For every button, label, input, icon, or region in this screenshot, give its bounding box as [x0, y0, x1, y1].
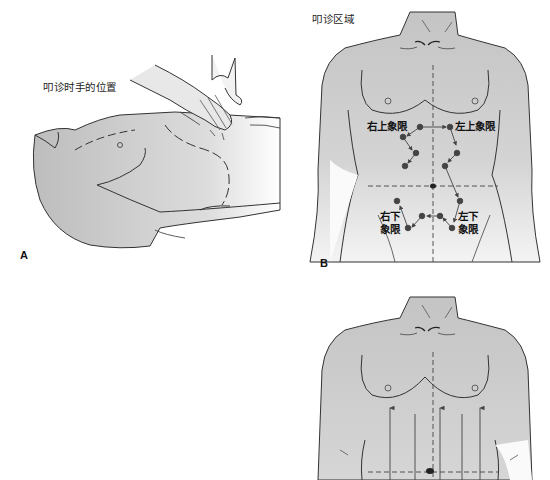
torso-quadrants-illustration [300, 0, 550, 270]
left-upper-quadrant-label: 左上象限 [455, 120, 495, 133]
reclining-patient-illustration [0, 0, 300, 270]
panel-b-letter: B [320, 257, 328, 269]
hand-position-caption: 叩诊时手的位置 [43, 79, 117, 94]
left-lower-quadrant-label: 左下 象限 [458, 210, 478, 236]
left-lower-line2: 象限 [458, 223, 478, 236]
panel-a-letter: A [20, 249, 28, 261]
percussion-regions-title: 叩诊区域 [312, 11, 354, 26]
right-lower-line1: 右下 [380, 210, 400, 223]
right-lower-line2: 象限 [380, 223, 400, 236]
panel-a: 叩诊时手的位置 A [0, 0, 300, 270]
panel-b: 叩诊区域 右上象限 左上象限 右下 象限 左下 象限 B [300, 0, 550, 270]
panel-c [300, 280, 550, 480]
torso-vertical-arrows-illustration [300, 280, 550, 480]
right-upper-quadrant-label: 右上象限 [367, 120, 407, 133]
right-lower-quadrant-label: 右下 象限 [380, 210, 400, 236]
left-lower-line1: 左下 [458, 210, 478, 223]
